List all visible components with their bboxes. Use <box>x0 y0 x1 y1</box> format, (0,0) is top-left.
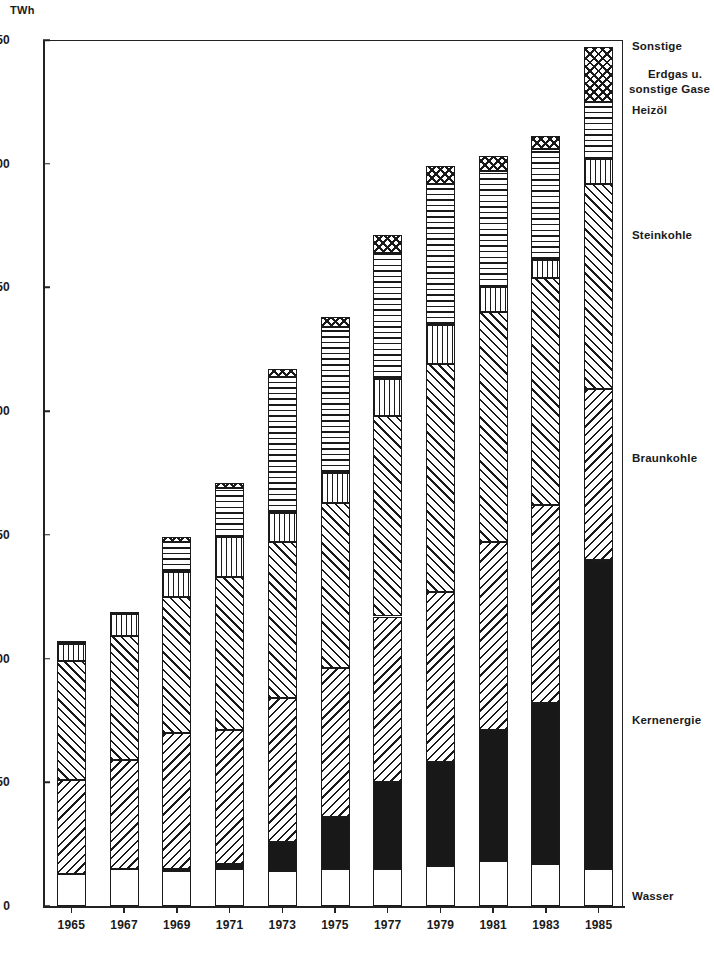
bar-segment-steinkohle[interactable] <box>321 503 350 669</box>
bar-1975[interactable] <box>321 40 350 906</box>
bar-segment-sonstige[interactable] <box>584 47 613 101</box>
bar-segment-erdgas-u-sonstige-gase[interactable] <box>321 327 350 473</box>
bar-segment-erdgas-u-sonstige-gase[interactable] <box>373 253 402 379</box>
bar-segment-kernenergie[interactable] <box>162 869 191 871</box>
y-tick-label: 50 <box>0 775 10 789</box>
bar-segment-kernenergie[interactable] <box>321 817 350 869</box>
bar-1977[interactable] <box>373 40 402 906</box>
bar-segment-erdgas-u-sonstige-gase[interactable] <box>110 612 139 614</box>
bar-segment-kernenergie[interactable] <box>531 703 560 864</box>
bar-segment-wasser[interactable] <box>215 869 244 906</box>
bar-segment-sonstige[interactable] <box>479 156 508 171</box>
bar-segment-heiz-l[interactable] <box>215 537 244 577</box>
bar-segment-heiz-l[interactable] <box>110 614 139 636</box>
bar-segment-wasser[interactable] <box>57 874 86 906</box>
bar-segment-heiz-l[interactable] <box>321 473 350 503</box>
bar-segment-heiz-l[interactable] <box>426 325 455 365</box>
bar-segment-heiz-l[interactable] <box>479 287 508 312</box>
x-tick-label: 1977 <box>374 918 402 932</box>
bar-segment-steinkohle[interactable] <box>162 597 191 733</box>
bar-segment-wasser[interactable] <box>321 869 350 906</box>
bar-segment-wasser[interactable] <box>531 864 560 906</box>
bar-segment-wasser[interactable] <box>426 866 455 906</box>
bar-segment-steinkohle[interactable] <box>373 416 402 616</box>
x-tick-mark <box>229 906 231 913</box>
bar-segment-sonstige[interactable] <box>531 136 560 148</box>
bar-segment-sonstige[interactable] <box>162 537 191 542</box>
x-tick-mark <box>71 906 73 913</box>
x-tick-mark <box>440 906 442 913</box>
bar-segment-steinkohle[interactable] <box>584 184 613 389</box>
bar-segment-braunkohle[interactable] <box>215 730 244 864</box>
bar-segment-braunkohle[interactable] <box>426 592 455 763</box>
bar-segment-steinkohle[interactable] <box>110 636 139 760</box>
bar-1967[interactable] <box>110 40 139 906</box>
bar-segment-erdgas-u-sonstige-gase[interactable] <box>531 149 560 260</box>
bar-segment-braunkohle[interactable] <box>479 542 508 730</box>
bar-segment-wasser[interactable] <box>162 871 191 906</box>
bar-segment-steinkohle[interactable] <box>57 661 86 780</box>
bar-segment-kernenergie[interactable] <box>373 782 402 869</box>
x-tick-label: 1975 <box>321 918 349 932</box>
bar-segment-steinkohle[interactable] <box>215 577 244 730</box>
bar-segment-erdgas-u-sonstige-gase[interactable] <box>584 102 613 159</box>
bar-segment-kernenergie[interactable] <box>584 560 613 869</box>
bar-segment-steinkohle[interactable] <box>531 278 560 506</box>
bar-1969[interactable] <box>162 40 191 906</box>
bar-1973[interactable] <box>268 40 297 906</box>
x-tick-label: 1967 <box>110 918 138 932</box>
bar-segment-braunkohle[interactable] <box>162 733 191 869</box>
bar-segment-heiz-l[interactable] <box>531 260 560 277</box>
bar-segment-braunkohle[interactable] <box>110 760 139 869</box>
x-tick-label: 1969 <box>163 918 191 932</box>
bar-segment-sonstige[interactable] <box>215 483 244 488</box>
bar-segment-steinkohle[interactable] <box>426 364 455 592</box>
bar-segment-erdgas-u-sonstige-gase[interactable] <box>426 184 455 325</box>
bar-segment-steinkohle[interactable] <box>268 542 297 698</box>
bar-segment-kernenergie[interactable] <box>479 730 508 861</box>
bar-segment-wasser[interactable] <box>373 869 402 906</box>
bar-segment-heiz-l[interactable] <box>57 644 86 661</box>
x-tick-label: 1973 <box>269 918 297 932</box>
bar-segment-heiz-l[interactable] <box>268 513 297 543</box>
bar-1983[interactable] <box>531 40 560 906</box>
y-tick-mark <box>43 658 50 660</box>
bar-segment-braunkohle[interactable] <box>268 698 297 842</box>
bar-segment-erdgas-u-sonstige-gase[interactable] <box>215 488 244 537</box>
bar-segment-sonstige[interactable] <box>268 369 297 376</box>
bar-1985[interactable] <box>584 40 613 906</box>
bar-segment-erdgas-u-sonstige-gase[interactable] <box>162 542 191 572</box>
bar-segment-braunkohle[interactable] <box>584 389 613 560</box>
bar-segment-erdgas-u-sonstige-gase[interactable] <box>57 641 86 643</box>
bar-1981[interactable] <box>479 40 508 906</box>
bar-1979[interactable] <box>426 40 455 906</box>
bar-segment-sonstige[interactable] <box>321 317 350 327</box>
bar-segment-steinkohle[interactable] <box>479 312 508 542</box>
bar-segment-braunkohle[interactable] <box>531 505 560 703</box>
bar-segment-sonstige[interactable] <box>426 166 455 183</box>
legend-label-braunkohle: Braunkohle <box>632 452 697 465</box>
bar-segment-braunkohle[interactable] <box>321 668 350 816</box>
bar-segment-wasser[interactable] <box>268 871 297 906</box>
y-tick-mark <box>43 163 50 165</box>
bar-segment-kernenergie[interactable] <box>215 864 244 869</box>
bar-segment-wasser[interactable] <box>479 861 508 906</box>
bar-segment-wasser[interactable] <box>584 869 613 906</box>
bar-1971[interactable] <box>215 40 244 906</box>
bar-segment-erdgas-u-sonstige-gase[interactable] <box>479 171 508 287</box>
bar-1965[interactable] <box>57 40 86 906</box>
bar-segment-braunkohle[interactable] <box>373 617 402 783</box>
bar-segment-heiz-l[interactable] <box>584 159 613 184</box>
bar-segment-braunkohle[interactable] <box>57 780 86 874</box>
y-tick-mark <box>43 287 50 289</box>
bar-segment-kernenergie[interactable] <box>426 762 455 866</box>
bar-segment-heiz-l[interactable] <box>162 572 191 597</box>
bar-segment-erdgas-u-sonstige-gase[interactable] <box>268 377 297 513</box>
x-tick-mark <box>492 906 494 913</box>
legend-label-wasser: Wasser <box>632 890 674 903</box>
bar-segment-heiz-l[interactable] <box>373 379 402 416</box>
bar-segment-kernenergie[interactable] <box>268 842 297 872</box>
bar-segment-wasser[interactable] <box>110 869 139 906</box>
legend-label-kernenergie: Kernenergie <box>632 714 701 727</box>
bar-segment-sonstige[interactable] <box>373 235 402 252</box>
